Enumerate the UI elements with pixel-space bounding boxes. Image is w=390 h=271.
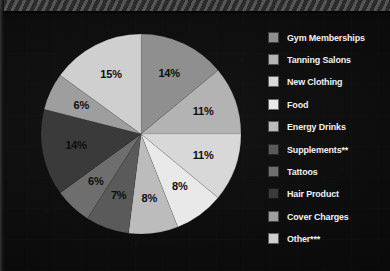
pie-slice-label: 6% <box>88 175 104 187</box>
legend-item[interactable]: Supplements** <box>268 138 388 160</box>
legend-item[interactable]: Energy Drinks <box>268 116 388 138</box>
chart-legend: Gym MembershipsTanning SalonsNew Clothin… <box>268 26 388 250</box>
legend-item-label: Tattoos <box>287 166 318 177</box>
pie-slice-label: 11% <box>193 149 214 161</box>
pie-chart: 14%11%11%8%8%7%6%14%6%15% <box>40 33 242 235</box>
pie-slice-label: 15% <box>100 68 122 80</box>
legend-swatch-icon <box>268 99 279 110</box>
top-band-shadow <box>0 11 390 14</box>
legend-item[interactable]: Other*** <box>268 228 388 250</box>
legend-swatch-icon <box>268 166 279 177</box>
legend-item-label: Tanning Salons <box>287 54 351 65</box>
pie-slice-label: 6% <box>74 99 90 111</box>
legend-item-label: Other*** <box>287 233 320 244</box>
pie-slice-label: 8% <box>142 192 158 204</box>
legend-item[interactable]: Food <box>268 93 388 115</box>
legend-item[interactable]: Cover Charges <box>268 205 388 227</box>
legend-swatch-icon <box>268 54 279 65</box>
legend-item[interactable]: Hair Product <box>268 183 388 205</box>
legend-item[interactable]: Tanning Salons <box>268 48 388 70</box>
legend-item[interactable]: New Clothing <box>268 71 388 93</box>
legend-swatch-icon <box>268 233 279 244</box>
legend-swatch-icon <box>268 121 279 132</box>
legend-swatch-icon <box>268 188 279 199</box>
legend-item-label: Food <box>287 99 308 110</box>
legend-item-label: Cover Charges <box>287 211 349 222</box>
legend-item-label: New Clothing <box>287 76 342 87</box>
legend-swatch-icon <box>268 76 279 87</box>
legend-swatch-icon <box>268 32 279 43</box>
legend-item[interactable]: Gym Memberships <box>268 26 388 48</box>
legend-item[interactable]: Tattoos <box>268 160 388 182</box>
left-edge-strip <box>0 0 4 271</box>
legend-item-label: Gym Memberships <box>287 32 365 43</box>
pie-slice-label: 7% <box>111 189 127 201</box>
chart-screenshot: 14%11%11%8%8%7%6%14%6%15% Gym Membership… <box>0 0 390 271</box>
top-hatch-band <box>0 0 390 11</box>
legend-item-label: Supplements** <box>287 144 348 155</box>
legend-item-label: Hair Product <box>287 188 339 199</box>
pie-slice-label: 14% <box>65 139 87 151</box>
pie-slice-label: 14% <box>158 67 180 79</box>
legend-item-label: Energy Drinks <box>287 121 346 132</box>
legend-swatch-icon <box>268 211 279 222</box>
pie-slice-label: 8% <box>172 180 188 192</box>
legend-swatch-icon <box>268 144 279 155</box>
pie-svg: 14%11%11%8%8%7%6%14%6%15% <box>40 33 242 235</box>
pie-slice-label: 11% <box>193 105 214 117</box>
